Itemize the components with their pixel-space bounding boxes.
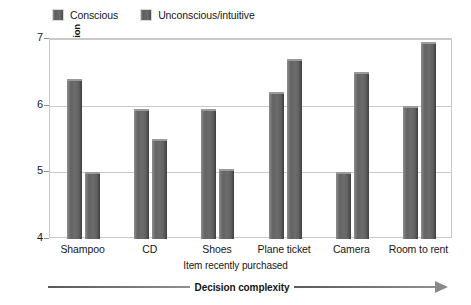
decision-complexity-annotation: Decision complexity [48, 278, 448, 296]
x-axis-title: Item recently purchased [0, 260, 471, 271]
bar-shampoo-unconscious [85, 172, 100, 239]
bar-highlight [152, 139, 167, 141]
bar-plane-ticket-conscious [269, 92, 284, 239]
bar-highlight [85, 172, 100, 174]
bars-layer [50, 39, 451, 237]
bar-plane-ticket-unconscious [287, 59, 302, 239]
legend-swatch-icon [140, 9, 152, 21]
legend-entry-conscious: Conscious [52, 9, 118, 21]
y-tick-mark [44, 238, 49, 239]
bar-highlight [67, 79, 82, 81]
bar-camera-conscious [336, 172, 351, 239]
bar-highlight [287, 59, 302, 61]
bar-highlight [269, 92, 284, 94]
y-tick-label: 4 [21, 231, 43, 243]
legend-label-unconscious: Unconscious/intuitive [158, 9, 255, 21]
bar-highlight [336, 172, 351, 174]
bar-camera-unconscious [354, 72, 369, 239]
bar-cd-unconscious [152, 139, 167, 239]
decision-complexity-label: Decision complexity [195, 282, 290, 293]
plot-area [49, 38, 452, 238]
bar-highlight [354, 72, 369, 74]
bar-highlight [219, 169, 234, 171]
legend-entry-unconscious: Unconscious/intuitive [140, 9, 255, 21]
x-category-label: Room to rent [358, 243, 471, 255]
bar-shoes-conscious [201, 109, 216, 239]
bar-room-to-rent-unconscious [421, 42, 436, 239]
bar-highlight [403, 106, 418, 108]
legend-swatch-icon [52, 9, 64, 21]
bar-shoes-unconscious [219, 169, 234, 239]
bar-shampoo-conscious [67, 79, 82, 239]
bar-highlight [134, 109, 149, 111]
arrow-line-left [48, 286, 190, 288]
bar-room-to-rent-conscious [403, 106, 418, 239]
arrow-head-icon [435, 281, 448, 293]
chart-legend: Conscious Unconscious/intuitive [52, 7, 255, 23]
bar-cd-conscious [134, 109, 149, 239]
arrow-line-right [294, 286, 436, 288]
y-tick-label: 7 [21, 31, 43, 43]
bar-highlight [201, 109, 216, 111]
y-tick-label: 5 [21, 164, 43, 176]
y-tick-label: 6 [21, 98, 43, 110]
bar-highlight [421, 42, 436, 44]
